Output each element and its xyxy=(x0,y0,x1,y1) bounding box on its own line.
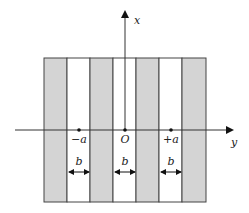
label-origin: O xyxy=(120,133,129,146)
gap-width-label: b xyxy=(121,155,128,168)
y-axis-label: y xyxy=(230,136,238,149)
x-axis-label: x xyxy=(134,14,141,27)
gap-width-label: b xyxy=(75,155,82,168)
point-minus-a xyxy=(77,128,81,132)
point-plus-a xyxy=(169,128,173,132)
gap-width-label: b xyxy=(167,155,174,168)
label-plus-a: +a xyxy=(163,133,179,146)
diagram-canvas: x y −a O +a b b b xyxy=(0,0,249,213)
label-minus-a: −a xyxy=(71,133,87,146)
point-origin xyxy=(123,128,127,132)
